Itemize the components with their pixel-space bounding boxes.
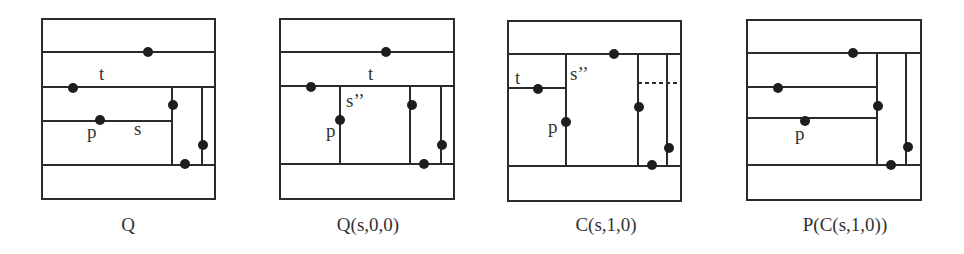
- points: [68, 47, 913, 170]
- caption-c-s10: C(s,1,0): [575, 214, 636, 236]
- label-s2-3: s’’: [570, 63, 589, 84]
- caption-q-s00: Q(s,0,0): [337, 214, 399, 236]
- panel-q-frame: [42, 19, 215, 199]
- panel-c-s10-frame: [508, 21, 681, 201]
- label-p-4: p: [795, 123, 805, 144]
- label-s-1: s: [134, 118, 141, 139]
- caption-q: Q: [121, 214, 135, 236]
- panel-c-s10: [508, 21, 681, 201]
- labels: t p s t p s’’ t p s’’ p: [87, 63, 805, 144]
- label-p-2: p: [326, 120, 336, 141]
- caption-p-c-s10: P(C(s,1,0)): [803, 214, 887, 236]
- panel-q-s00-frame: [280, 19, 454, 199]
- label-t-1: t: [99, 63, 105, 84]
- label-p-3: p: [548, 116, 558, 137]
- panel-p-frame: [747, 20, 921, 200]
- panel-q: [42, 19, 215, 199]
- label-s2-2: s’’: [346, 90, 365, 111]
- label-t-3: t: [515, 67, 521, 88]
- label-p-1: p: [87, 121, 97, 142]
- panel-q-s00: [280, 19, 454, 199]
- panel-p-c-s10: [747, 20, 921, 200]
- label-t-2: t: [368, 63, 374, 84]
